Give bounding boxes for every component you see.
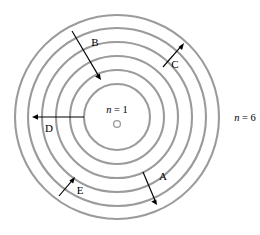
orbit-diagram-canvas: n = 1 n = 6 B C D E bbox=[0, 0, 260, 235]
level-label-n1-value: 1 bbox=[123, 104, 128, 115]
level-label-n6-equals: = bbox=[239, 112, 250, 123]
level-label-n6: n = 6 bbox=[234, 112, 256, 123]
orbit-circle-n1 bbox=[84, 84, 150, 150]
arrow-d-label: D bbox=[45, 122, 53, 134]
arrow-a-label: A bbox=[159, 170, 167, 182]
transition-arrow-a: A bbox=[143, 170, 167, 205]
arrow-b-label: B bbox=[91, 36, 98, 48]
level-label-n1-equals: = bbox=[111, 104, 122, 115]
level-label-n6-value: 6 bbox=[251, 112, 256, 123]
bohr-model-figure: n = 1 n = 6 B C D E bbox=[0, 0, 260, 235]
arrow-e-label: E bbox=[77, 184, 84, 196]
arrow-c-label: C bbox=[171, 58, 178, 70]
svg-text:n = 1: n = 1 bbox=[106, 104, 128, 115]
svg-text:n = 6: n = 6 bbox=[234, 112, 256, 123]
arrow-d-head bbox=[32, 114, 38, 119]
arrow-a-head bbox=[151, 199, 157, 205]
nucleus-icon bbox=[114, 121, 121, 128]
level-label-n1: n = 1 bbox=[106, 104, 128, 115]
